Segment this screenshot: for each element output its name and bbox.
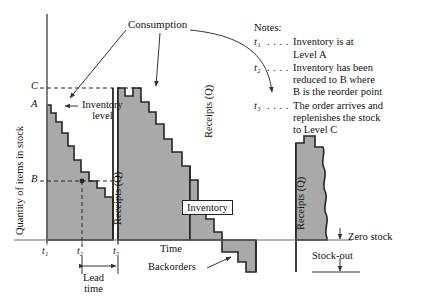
note-t2-line3: B is the reorder point	[293, 86, 382, 97]
receipts-label-3: Receipts (Q)	[295, 177, 306, 230]
inventory-level-label: Inventory level	[82, 99, 123, 122]
y-tick-label-b: B	[31, 173, 37, 184]
reorder-point-marker	[80, 179, 85, 184]
note-text-t2: Inventory has been reduced to B where B …	[293, 62, 382, 99]
consumption-leader-lines	[70, 30, 272, 98]
notes-heading: Notes:	[254, 22, 383, 34]
inventory-area-cycle-1	[47, 105, 113, 240]
note-t3-line3: to Level C	[293, 124, 337, 135]
note-dots-t3: . . . .	[267, 100, 293, 137]
note-key-t2: t₂	[254, 62, 267, 99]
inventory-diagram: Quantity of items in stock Time C A B t₁…	[0, 0, 424, 301]
note-item-t2: t₂ . . . . Inventory has been reduced to…	[254, 62, 383, 99]
backorders-label: Backorders	[148, 261, 196, 272]
note-text-t1: Inventory is at Level A	[293, 36, 354, 61]
notes-panel: Notes: t₁ . . . . Inventory is at Level …	[254, 22, 383, 137]
note-item-t1: t₁ . . . . Inventory is at Level A	[254, 36, 383, 61]
note-key-t1: t₁	[254, 36, 267, 61]
lead-time-line2: time	[84, 283, 103, 294]
note-dots-t1: . . . .	[267, 36, 293, 61]
note-t1-line2: Level A	[293, 49, 327, 60]
note-dots-t2: . . . .	[267, 62, 293, 99]
x-axis-label: Time	[160, 243, 182, 254]
backorder-area	[222, 240, 256, 272]
note-t2-line2: reduced to B where	[293, 74, 375, 85]
x-tick-label-t2: t₂	[77, 245, 83, 256]
receipts-label-1: Receipts (Q)	[112, 172, 123, 225]
zero-stock-label: Zero stock	[348, 231, 393, 242]
note-item-t3: t₃ . . . . The order arrives and repleni…	[254, 100, 383, 137]
note-t2-line1: Inventory has been	[293, 62, 373, 73]
x-tick-label-t1: t₁	[42, 245, 48, 256]
stock-out-label: Stock-out	[312, 250, 353, 261]
x-tick-label-t3: t₃	[113, 245, 119, 256]
consumption-label: Consumption	[128, 18, 187, 30]
inventory-area-cycle-2	[118, 88, 190, 240]
note-t1-line1: Inventory is at	[293, 36, 354, 47]
inventory-level-line1: Inventory	[82, 99, 123, 110]
y-axis-label: Quantity of items in stock	[14, 126, 25, 235]
note-t3-line1: The order arrives and	[293, 100, 383, 111]
backorders-leader	[207, 257, 231, 268]
inventory-box-label: Inventory	[182, 200, 233, 215]
lead-time-line1: Lead	[83, 272, 104, 283]
lead-time-label: Lead time	[83, 272, 104, 294]
receipts-label-2: Receipts (Q)	[203, 85, 214, 138]
y-tick-label-a: A	[31, 98, 37, 109]
note-key-t3: t₃	[254, 100, 267, 137]
note-text-t3: The order arrives and replenishes the st…	[293, 100, 383, 137]
y-tick-label-c: C	[31, 80, 38, 91]
note-t3-line2: replenishes the stock	[293, 112, 380, 123]
inventory-level-line2: level	[92, 110, 112, 121]
